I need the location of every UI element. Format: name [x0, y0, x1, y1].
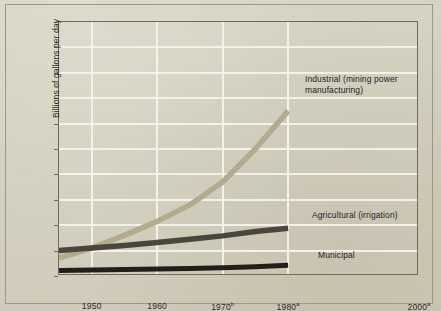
x-tick-label: 2000a — [408, 301, 431, 311]
x-tick-label: 1980a — [277, 301, 300, 311]
plot-area: 01002003004005006007008009001000 1950196… — [58, 21, 418, 275]
y-tick-mark — [54, 225, 58, 226]
series-line — [59, 111, 288, 258]
series-label-1: Industrial (mining power manufacturing) — [305, 74, 398, 96]
chart-page: 01002003004005006007008009001000 1950196… — [0, 0, 441, 311]
series-label-3: Municipal — [318, 250, 355, 261]
y-tick-mark — [54, 200, 58, 201]
x-tick-label: 1960 — [147, 301, 167, 311]
y-tick-mark — [54, 124, 58, 125]
x-tick-label: 1970b — [211, 301, 234, 311]
series-line — [59, 265, 288, 270]
y-tick-mark — [54, 149, 58, 150]
x-tick-label: 1950 — [82, 301, 102, 311]
y-tick-mark — [54, 174, 58, 175]
series-line — [59, 228, 288, 250]
series-label-2: Agricultural (irrigation) — [312, 210, 398, 221]
series-lines — [59, 22, 419, 276]
y-tick-mark — [54, 251, 58, 252]
y-tick-mark — [54, 276, 58, 277]
